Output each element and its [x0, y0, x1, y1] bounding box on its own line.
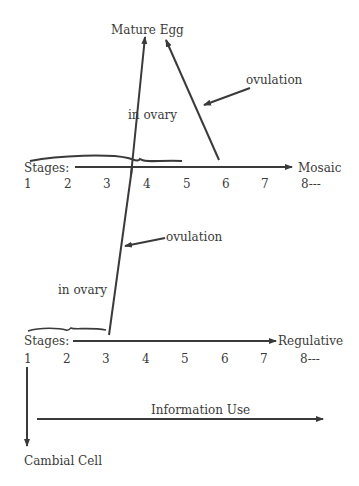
- regulative-label: Regulative: [278, 335, 343, 347]
- ovulation-arrow-top: [166, 40, 219, 160]
- in-ovary-label-top: in ovary: [128, 109, 177, 121]
- in-ovary-line-bottom: [109, 168, 132, 335]
- bottom-stage-1: 1: [24, 353, 32, 365]
- mature-egg-label: Mature Egg: [111, 24, 184, 36]
- top-stage-2: 2: [64, 178, 72, 190]
- ovulation-pointer-top: [204, 88, 250, 105]
- stages-label-top: Stages:: [24, 162, 69, 174]
- top-stage-1: 1: [24, 178, 32, 190]
- cambial-cell-label: Cambial Cell: [24, 455, 102, 467]
- top-stage-4: 4: [143, 178, 151, 190]
- top-stage-6: 6: [222, 178, 230, 190]
- ovulation-pointer-bottom: [125, 238, 165, 246]
- bottom-stage-5: 5: [181, 353, 189, 365]
- top-stage-8: 8---: [301, 178, 321, 190]
- top-stage-3: 3: [103, 178, 111, 190]
- information-use-label: Information Use: [151, 404, 250, 416]
- bottom-stage-3: 3: [102, 353, 110, 365]
- bottom-stage-4: 4: [142, 353, 150, 365]
- stages-label-bottom: Stages:: [24, 335, 69, 347]
- ovulation-label-bottom: ovulation: [166, 231, 222, 243]
- bottom-stage-2: 2: [63, 353, 71, 365]
- ovulation-label-top: ovulation: [246, 74, 302, 86]
- bottom-stage-7: 7: [260, 353, 268, 365]
- bottom-brace: [28, 328, 106, 331]
- bottom-stage-6: 6: [221, 353, 229, 365]
- mosaic-label: Mosaic: [298, 162, 341, 174]
- top-stage-5: 5: [183, 178, 191, 190]
- in-ovary-arrow-top: [131, 37, 145, 175]
- top-stage-7: 7: [261, 178, 269, 190]
- in-ovary-label-bottom: in ovary: [58, 284, 107, 296]
- bottom-stage-8: 8---: [300, 353, 320, 365]
